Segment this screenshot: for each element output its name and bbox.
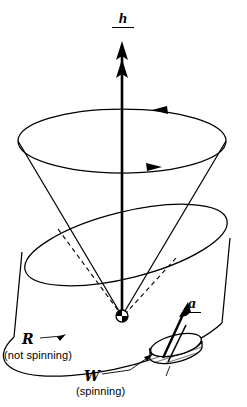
label-frame-R-symbol: R [22, 332, 34, 346]
physics-figure: h a R (not spinning) W (spinning) [0, 0, 247, 407]
figure-background [0, 0, 247, 407]
label-frame-R-caption: (not spinning) [4, 350, 72, 361]
figure-canvas [0, 0, 247, 407]
label-acceleration-a: a [183, 296, 201, 313]
label-angular-momentum-h: h [112, 11, 134, 28]
pendulum-bob [116, 310, 128, 322]
label-frame-W-symbol: W [84, 369, 100, 383]
label-frame-W-caption: (spinning) [76, 386, 125, 397]
